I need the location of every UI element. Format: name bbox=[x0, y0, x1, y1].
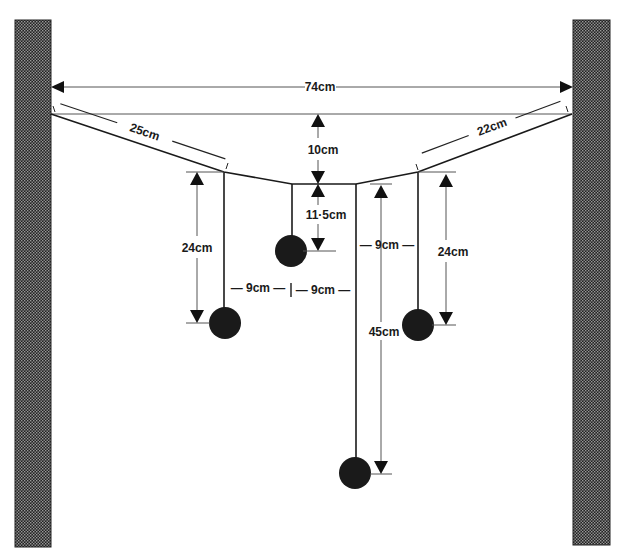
long-drop-dimension: 45cm bbox=[369, 184, 400, 474]
right-wall bbox=[573, 20, 610, 545]
span-label: 74cm bbox=[305, 80, 336, 94]
right-weight bbox=[402, 309, 434, 341]
bottom-weight bbox=[339, 457, 371, 489]
mid-spacing-label: — 9cm — bbox=[296, 283, 351, 297]
span-dimension: 74cm bbox=[51, 80, 573, 94]
middle-drop-label: 11·5cm bbox=[306, 208, 347, 222]
mobile-diagram: 74cm 25cm 22cm 10cm 1 bbox=[0, 0, 623, 560]
right-segment-dimension: 22cm bbox=[419, 95, 563, 160]
left-segment-dimension: 25cm bbox=[58, 97, 227, 165]
right-drop-label: 24cm bbox=[438, 245, 469, 259]
right-spacing-label: — 9cm — bbox=[360, 238, 415, 252]
right-segment-label: 22cm bbox=[475, 115, 509, 139]
long-drop-label: 45cm bbox=[369, 325, 400, 339]
sag-label: 10cm bbox=[308, 143, 339, 157]
right-drop-dimension: 24cm bbox=[418, 172, 468, 325]
middle-drop-dimension: 11·5cm bbox=[303, 184, 346, 251]
left-segment-label: 25cm bbox=[128, 120, 162, 143]
middle-weight bbox=[275, 235, 307, 267]
sag-dimension: 10cm bbox=[308, 114, 339, 184]
left-weight bbox=[209, 307, 241, 339]
left-wall bbox=[15, 20, 51, 547]
left-drop-label: 24cm bbox=[182, 241, 213, 255]
left-drop-dimension: 24cm bbox=[182, 172, 224, 323]
left-spacing-label: — 9cm — bbox=[231, 281, 286, 295]
